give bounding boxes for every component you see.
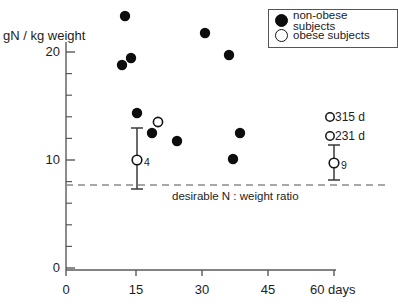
point-label-4: 4 (144, 156, 150, 168)
data-point-open (132, 155, 142, 165)
reference-line-label: desirable N : weight ratio (172, 190, 299, 202)
data-point-open (153, 117, 162, 126)
point-label-9: 9 (341, 159, 347, 171)
annotation-open-circle-315 (326, 113, 334, 121)
data-point-filled (224, 50, 234, 60)
legend-label-obese: obese subjects (293, 30, 370, 41)
legend: non-obese subjects obese subjects (268, 9, 398, 48)
data-point-filled (200, 28, 210, 38)
x-tick-label-45: 45 (256, 282, 280, 297)
data-point-filled (126, 53, 136, 63)
legend-item-non-obese: non-obese subjects (275, 13, 390, 28)
x-ticks (66, 270, 334, 276)
series-non-obese-points (117, 11, 245, 164)
y-major-ticks (66, 52, 75, 268)
x-tick-label-60-days: 60 days (310, 282, 370, 297)
data-point-filled (117, 60, 127, 70)
annotation-markers (326, 113, 334, 140)
y-tick-label-10: 10 (38, 152, 60, 167)
annotation-label-231d: 231 d (335, 129, 365, 143)
annotation-open-circle-231 (326, 132, 334, 140)
legend-filled-circle-icon (275, 14, 288, 27)
x-tick-label-0: 0 (54, 282, 78, 297)
annotation-label-315d: 315 d (335, 110, 365, 124)
scatter-chart: gN / kg weight 20 10 0 0 15 30 45 60 day… (0, 0, 398, 308)
data-point-filled (235, 128, 245, 138)
legend-open-circle-icon (275, 29, 288, 42)
data-point-open (329, 158, 339, 168)
x-tick-label-30: 30 (190, 282, 214, 297)
data-point-filled (228, 154, 238, 164)
data-point-filled (120, 11, 130, 21)
y-tick-label-20: 20 (38, 44, 60, 59)
x-tick-label-15: 15 (124, 282, 148, 297)
y-tick-label-0: 0 (38, 260, 60, 275)
y-axis-title: gN / kg weight (3, 28, 85, 43)
data-point-filled (147, 128, 157, 138)
data-point-filled (132, 108, 142, 118)
data-point-filled (172, 136, 182, 146)
